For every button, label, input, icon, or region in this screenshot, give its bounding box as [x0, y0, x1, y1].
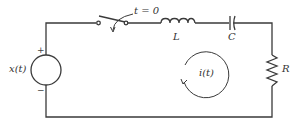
circuit-schematic — [0, 0, 295, 125]
resistor-label: R — [282, 64, 290, 74]
wire-top-right — [234, 23, 273, 55]
voltage-source-icon — [31, 55, 61, 85]
inductor-label: L — [173, 32, 180, 42]
source-minus-sign: − — [37, 86, 45, 95]
switch-time-label: t = 0 — [134, 6, 159, 16]
source-plus-sign: + — [37, 46, 45, 55]
wire-bottom — [46, 85, 272, 117]
inductor-icon — [161, 19, 195, 24]
capacitor-label: C — [228, 32, 236, 42]
current-label: i(t) — [199, 68, 214, 78]
wire-left-top — [46, 23, 96, 55]
resistor-icon — [267, 55, 277, 86]
switch-icon — [97, 14, 133, 32]
rlc-circuit-diagram: x(t) + − t = 0 L C R i(t) — [0, 0, 295, 125]
source-label: x(t) — [9, 64, 26, 74]
